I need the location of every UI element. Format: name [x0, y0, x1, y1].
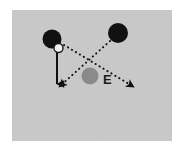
- origin-hollow-circle: [54, 44, 63, 53]
- field-point-marker: [82, 68, 99, 85]
- field-point-label: E: [103, 72, 112, 87]
- charge-upper-right: [108, 23, 128, 43]
- diagram-canvas: E: [0, 0, 185, 151]
- figure-root: E: [0, 0, 185, 151]
